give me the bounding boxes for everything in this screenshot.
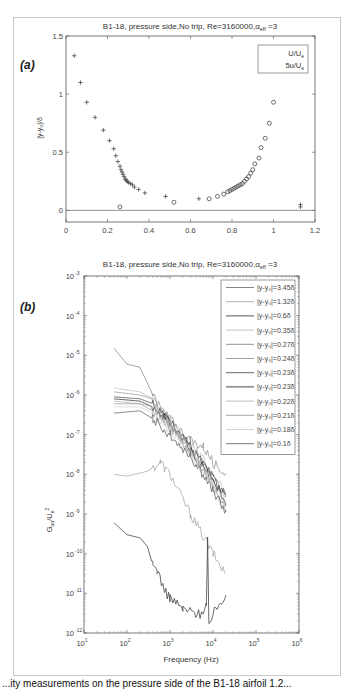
spectra-lines-b <box>114 348 226 623</box>
svg-text:102: 102 <box>119 637 130 648</box>
chart-panel-a: B1-18, pressure side,No trip, Re=3160000… <box>36 22 320 235</box>
svg-text:-9: -9 <box>75 508 80 514</box>
svg-text:10: 10 <box>66 312 74 321</box>
svg-text:10: 10 <box>66 470 74 479</box>
svg-text:103: 103 <box>162 637 173 648</box>
svg-text:0.6: 0.6 <box>185 226 195 235</box>
svg-text:10: 10 <box>66 351 74 360</box>
y-axis-label-a: |y-y₀|/δ <box>36 117 44 139</box>
svg-text:10: 10 <box>66 629 74 638</box>
svg-text:10: 10 <box>66 550 74 559</box>
svg-text:-7: -7 <box>75 429 80 435</box>
svg-text:0.2: 0.2 <box>102 226 112 235</box>
svg-text:10: 10 <box>66 431 74 440</box>
svg-text:-12: -12 <box>75 627 82 633</box>
chart-panel-b: B1-18, pressure side,No trip, Re=3160000… <box>44 260 303 664</box>
legend-a: U/Ue 5u/Ue <box>258 45 308 73</box>
legend-entry-b: |y-y₀|=0.23δ <box>257 383 295 391</box>
svg-text:106: 106 <box>291 637 302 648</box>
svg-text:0: 0 <box>64 226 68 235</box>
data-points-a <box>72 54 303 210</box>
legend-b: |y-y₀|=3.45δ|y-y₀|=1.32δ|y-y₀|=0.6δ|y-y₀… <box>221 280 295 454</box>
legend-entry-b: |y-y₀|=0.35δ <box>257 327 295 335</box>
figure-caption-partial: ...ity measurements on the pressure side… <box>2 678 352 692</box>
svg-text:-6: -6 <box>75 389 80 395</box>
svg-text:101: 101 <box>76 637 87 648</box>
svg-text:-3: -3 <box>75 270 80 276</box>
legend-entry-b: |y-y₀|=0.23δ <box>257 369 295 377</box>
legend-entry-b: |y-y₀|=0.22δ <box>257 398 295 406</box>
legend-entry-b: |y-y₀|=0.21δ <box>257 412 295 420</box>
svg-text:1.5: 1.5 <box>53 32 63 41</box>
svg-text:1.2: 1.2 <box>310 226 320 235</box>
svg-text:0: 0 <box>59 206 63 215</box>
legend-entry-b: |y-y₀|=0.1δ <box>257 440 291 448</box>
svg-text:105: 105 <box>248 637 259 648</box>
svg-text:-4: -4 <box>75 310 80 316</box>
chart-title-b: B1-18, pressure side,No trip, Re=3160000… <box>103 260 278 270</box>
svg-text:10: 10 <box>66 510 74 519</box>
svg-text:-5: -5 <box>75 349 80 355</box>
svg-text:1: 1 <box>271 226 275 235</box>
svg-text:-8: -8 <box>75 468 80 474</box>
svg-text:0.4: 0.4 <box>144 226 154 235</box>
legend-entry-b: |y-y₀|=3.45δ <box>257 284 295 292</box>
y-axis-label-b: Guu/Ue2 <box>44 508 55 533</box>
svg-text:10: 10 <box>66 391 74 400</box>
svg-text:1: 1 <box>59 90 63 99</box>
legend-entry-b: |y-y₀|=0.24δ <box>257 355 295 363</box>
legend-entry-b: |y-y₀|=0.27δ <box>257 341 295 349</box>
x-axis-label-b: Frequency (Hz) <box>163 655 218 664</box>
legend-entry-b: |y-y₀|=1.32δ <box>257 298 295 306</box>
legend-entry-b: |y-y₀|=0.6δ <box>257 312 291 320</box>
svg-text:10: 10 <box>66 272 74 281</box>
legend-entry-b: |y-y₀|=0.18δ <box>257 426 295 434</box>
svg-text:10: 10 <box>66 589 74 598</box>
svg-text:104: 104 <box>205 637 216 648</box>
svg-text:-11: -11 <box>75 587 82 593</box>
svg-text:0.5: 0.5 <box>53 148 63 157</box>
svg-text:0.8: 0.8 <box>227 226 237 235</box>
svg-text:-10: -10 <box>75 548 82 554</box>
chart-title-a: B1-18, pressure side,No trip, Re=3160000… <box>103 22 278 32</box>
